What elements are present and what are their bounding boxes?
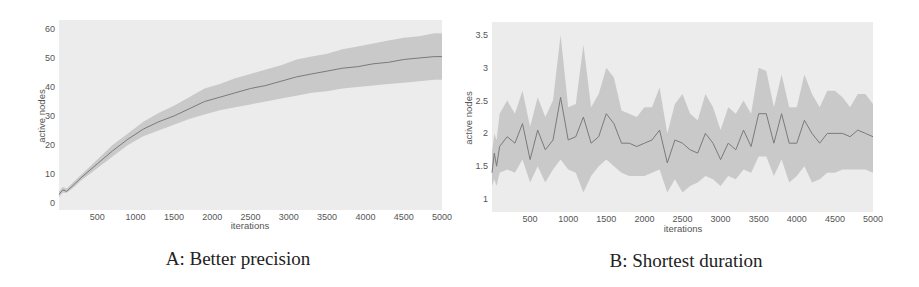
y-tick-b: 1 — [464, 194, 488, 204]
x-tick-b: 500 — [523, 214, 538, 224]
x-tick-b: 3500 — [749, 214, 769, 224]
x-tick-b: 4000 — [787, 214, 807, 224]
x-tick-b: 1500 — [596, 214, 616, 224]
caption-b: B: Shortest duration — [609, 250, 762, 272]
chart-panel-b: 11.522.533.5 500100015002000250030003500… — [0, 0, 919, 287]
y-tick-b: 1.5 — [464, 161, 488, 171]
y-tick-b: 3.5 — [464, 30, 488, 40]
x-axis-label-b: iterations — [664, 223, 703, 234]
x-tick-b: 5000 — [863, 214, 883, 224]
chart-b-svg — [0, 0, 919, 287]
y-axis-label-b: active nodes — [463, 91, 474, 144]
confidence-band-b — [492, 35, 873, 192]
x-tick-b: 3000 — [711, 214, 731, 224]
x-tick-b: 4500 — [825, 214, 845, 224]
x-tick-b: 2000 — [634, 214, 654, 224]
x-tick-b: 1000 — [558, 214, 578, 224]
y-tick-b: 3 — [464, 63, 488, 73]
